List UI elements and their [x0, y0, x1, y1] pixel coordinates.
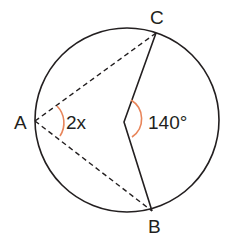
central-angle-arc [131, 100, 142, 137]
chord-ac-dashed [35, 33, 156, 121]
inscribed-angle-label: 2x [66, 112, 87, 133]
circle [35, 28, 219, 212]
central-angle-label: 140° [148, 112, 187, 133]
point-label-b: B [148, 216, 161, 237]
point-label-c: C [150, 7, 164, 28]
inscribed-angle-arc [57, 106, 64, 136]
circle-diagram: A C B 2x 140° [0, 0, 229, 248]
point-label-a: A [14, 112, 27, 133]
